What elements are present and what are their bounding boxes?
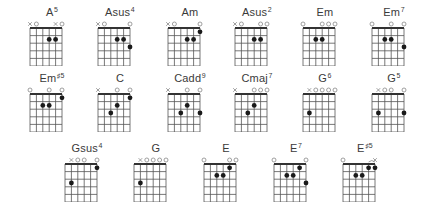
open-string-icon [333,22,337,26]
finger-dot [128,95,133,100]
chord-diagram-cmaj7: Cmaj7 [227,72,287,132]
fretboard-grid [364,72,424,132]
open-string-icon [265,22,269,26]
finger-dot [214,173,219,178]
open-string-icon [158,158,162,162]
finger-dot [252,37,257,42]
open-string-icon [202,158,206,162]
fretboard-grid [22,72,82,132]
open-string-icon [128,88,132,92]
open-string-icon [383,88,387,92]
finger-dot [304,181,309,186]
chord-diagram-e: E [196,142,256,202]
fretboard-grid [160,6,220,66]
open-string-icon [333,88,337,92]
muted-string-icon [377,88,381,92]
muted-string-icon [308,88,312,92]
muted-string-icon [70,158,74,162]
finger-dot [69,181,74,186]
fretboard-grid [335,142,395,202]
open-string-icon [76,158,80,162]
fretboard-grid [227,6,287,66]
fretboard-grid [266,142,326,202]
fretboard-grid [126,142,186,202]
chord-diagram-gsus4: Gsus4 [57,142,117,202]
chord-diagram-cadd9: Cadd9 [160,72,220,132]
open-string-icon [145,158,149,162]
open-string-icon [320,88,324,92]
open-string-icon [259,88,263,92]
finger-dot [353,173,358,178]
finger-dot [185,37,190,42]
finger-dot [227,165,232,170]
open-string-icon [47,88,51,92]
finger-dot [320,37,325,42]
chord-diagram-e5: E♯5 [335,142,395,202]
finger-dot [382,37,387,42]
fretboard-grid [295,6,355,66]
chord-diagram-a5: A5 [22,6,82,66]
chord-diagram-em7: Em7 [364,6,424,66]
open-string-icon [82,158,86,162]
muted-string-icon [96,88,100,92]
open-string-icon [389,22,393,26]
finger-dot [47,103,52,108]
finger-dot [313,37,318,42]
open-string-icon [128,22,132,26]
open-string-icon [60,88,64,92]
finger-dot [108,111,113,116]
finger-dot [53,37,58,42]
finger-dot [185,103,190,108]
fretboard-grid [90,6,150,66]
chord-diagram-c: C [90,72,150,132]
open-string-icon [327,88,331,92]
muted-string-icon [96,22,100,26]
open-string-icon [252,88,256,92]
finger-dot [115,103,120,108]
open-string-icon [34,22,38,26]
finger-dot [366,165,371,170]
finger-dot [258,37,263,42]
chord-diagram-g: G [126,142,186,202]
fretboard-grid [196,142,256,202]
open-string-icon [389,88,393,92]
open-string-icon [314,88,318,92]
open-string-icon [102,22,106,26]
finger-dot [138,181,143,186]
open-string-icon [341,158,345,162]
finger-dot [291,173,296,178]
muted-string-icon [166,88,170,92]
finger-dot [389,37,394,42]
chord-diagram-am: Am [160,6,220,66]
muted-string-icon [139,158,143,162]
finger-dot [252,103,257,108]
finger-dot [307,111,312,116]
finger-dot [402,45,407,50]
finger-dot [40,103,45,108]
chord-diagram-g5: G5 [364,72,424,132]
finger-dot [121,37,126,42]
fretboard-grid [90,72,150,132]
open-string-icon [301,22,305,26]
finger-dot [360,173,365,178]
chord-diagram-g6: G6 [295,72,355,132]
muted-string-icon [28,22,32,26]
fretboard-grid [160,72,220,132]
open-string-icon [185,88,189,92]
open-string-icon [198,22,202,26]
finger-dot [402,111,407,116]
finger-dot [198,111,203,116]
finger-dot [297,165,302,170]
open-string-icon [234,158,238,162]
finger-dot [178,111,183,116]
open-string-icon [265,88,269,92]
open-string-icon [151,158,155,162]
open-string-icon [228,158,232,162]
finger-dot [128,45,133,50]
fretboard-grid [227,72,287,132]
fretboard-grid [295,72,355,132]
open-string-icon [259,22,263,26]
open-string-icon [327,22,331,26]
finger-dot [245,111,250,116]
fretboard-grid [57,142,117,202]
